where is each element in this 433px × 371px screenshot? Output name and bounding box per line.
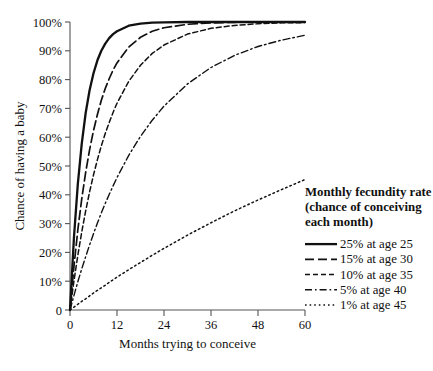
y-tick-label: 60% bbox=[39, 131, 62, 145]
fecundity-line-chart: 010%20%30%40%50%60%70%80%90%100%01224364… bbox=[0, 0, 433, 371]
series-line-15pct bbox=[70, 22, 305, 310]
legend-title-line: each month) bbox=[305, 215, 373, 229]
y-tick-label: 30% bbox=[39, 217, 62, 231]
legend-label-25pct: 25% at age 25 bbox=[340, 237, 413, 251]
y-tick-label: 40% bbox=[39, 188, 62, 202]
series-line-10pct bbox=[70, 23, 305, 310]
y-tick-label: 10% bbox=[39, 275, 62, 289]
series-line-1pct bbox=[70, 180, 305, 310]
x-tick-label: 24 bbox=[158, 318, 171, 332]
y-tick-label: 100% bbox=[33, 16, 62, 30]
y-tick-label: 80% bbox=[39, 73, 62, 87]
x-tick-label: 12 bbox=[111, 318, 124, 332]
x-axis-title: Months trying to conceive bbox=[119, 336, 256, 351]
x-tick-label: 0 bbox=[67, 318, 73, 332]
x-tick-label: 60 bbox=[299, 318, 312, 332]
y-tick-label: 0 bbox=[56, 304, 62, 318]
chart-figure: 010%20%30%40%50%60%70%80%90%100%01224364… bbox=[0, 0, 433, 371]
x-tick-label: 48 bbox=[252, 318, 265, 332]
series-line-25pct bbox=[70, 22, 305, 310]
y-tick-label: 70% bbox=[39, 102, 62, 116]
legend-label-1pct: 1% at age 45 bbox=[340, 298, 406, 312]
y-tick-label: 90% bbox=[39, 44, 62, 58]
y-tick-label: 50% bbox=[39, 160, 62, 174]
legend-title-line: (chance of conceiving bbox=[305, 200, 422, 214]
x-tick-label: 36 bbox=[205, 318, 218, 332]
legend-label-15pct: 15% at age 30 bbox=[340, 252, 413, 266]
y-tick-label: 20% bbox=[39, 246, 62, 260]
series-line-5pct bbox=[70, 35, 305, 310]
legend-title-line: Monthly fecundity rate bbox=[305, 185, 432, 199]
legend-label-10pct: 10% at age 35 bbox=[340, 268, 413, 282]
y-axis-title: Chance of having a baby bbox=[12, 101, 27, 231]
legend-label-5pct: 5% at age 40 bbox=[340, 283, 406, 297]
